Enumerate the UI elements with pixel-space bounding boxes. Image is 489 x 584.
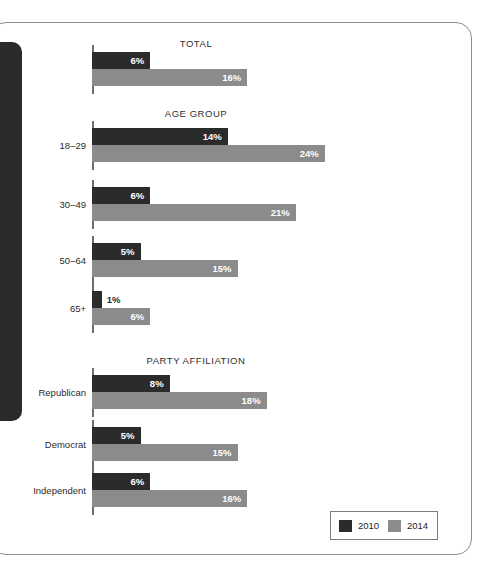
bar-value-label: 15% bbox=[92, 444, 232, 461]
legend-label-2010: 2010 bbox=[358, 520, 379, 531]
legend-label-2014: 2014 bbox=[407, 520, 428, 531]
bar-value-label: 1% bbox=[107, 291, 121, 308]
bar-value-label: 5% bbox=[92, 243, 135, 260]
category-label: 30–49 bbox=[60, 199, 86, 210]
bar-value-label: 16% bbox=[92, 490, 241, 507]
grouped-bar-chart: TOTAL6%16%AGE GROUP18–2914%24%30–496%21%… bbox=[0, 0, 489, 584]
category-label: Republican bbox=[38, 387, 86, 398]
chart-page: TOTAL6%16%AGE GROUP18–2914%24%30–496%21%… bbox=[0, 0, 489, 584]
legend-item-2014[interactable]: 2014 bbox=[388, 519, 428, 532]
bar-value-label: 6% bbox=[92, 52, 144, 69]
bar-value-label: 24% bbox=[92, 145, 319, 162]
section-title: AGE GROUP bbox=[165, 108, 228, 119]
category-label: Independent bbox=[33, 485, 86, 496]
legend-item-2010[interactable]: 2010 bbox=[339, 519, 379, 532]
bar-value-label: 8% bbox=[92, 375, 164, 392]
bar-value-label: 18% bbox=[92, 392, 261, 409]
bar-value-label: 5% bbox=[92, 427, 135, 444]
section-title: TOTAL bbox=[180, 38, 213, 49]
bar-value-label: 6% bbox=[92, 473, 144, 490]
legend-swatch-2014 bbox=[388, 520, 401, 532]
category-label: 50–64 bbox=[60, 255, 86, 266]
category-label: Democrat bbox=[45, 439, 86, 450]
bar-value-label: 14% bbox=[92, 128, 222, 145]
chart-legend: 2010 2014 bbox=[330, 511, 438, 540]
bar-value-label: 6% bbox=[92, 308, 144, 325]
bar-value-label: 15% bbox=[92, 260, 232, 277]
bar-2010 bbox=[92, 291, 102, 308]
category-label: 65+ bbox=[70, 303, 86, 314]
section-title: PARTY AFFILIATION bbox=[147, 355, 246, 366]
bar-value-label: 16% bbox=[92, 69, 241, 86]
bar-value-label: 6% bbox=[92, 187, 144, 204]
category-label: 18–29 bbox=[60, 140, 86, 151]
bar-value-label: 21% bbox=[92, 204, 290, 221]
legend-swatch-2010 bbox=[339, 520, 352, 532]
